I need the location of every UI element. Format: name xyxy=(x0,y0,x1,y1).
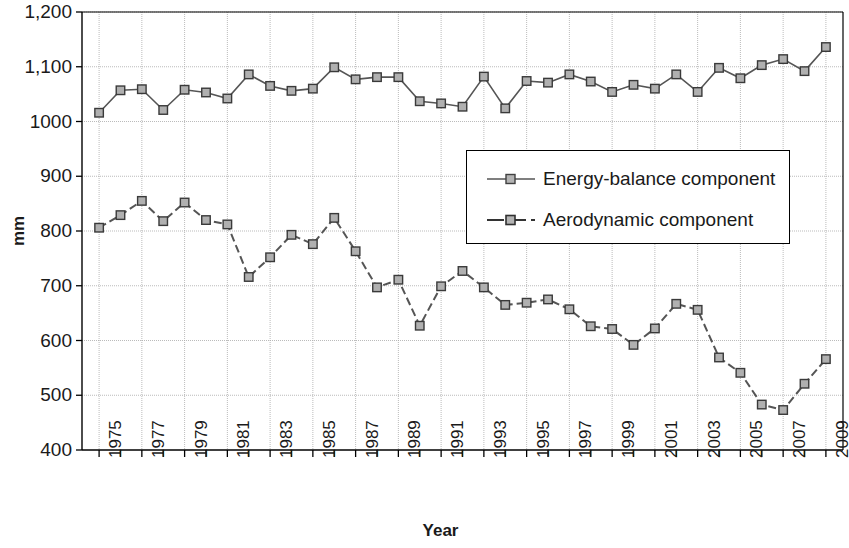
legend-label-energy-balance: Energy-balance component xyxy=(543,168,775,190)
data-point-marker xyxy=(736,74,745,83)
data-point-marker xyxy=(266,82,275,91)
data-point-marker xyxy=(373,73,382,82)
data-point-marker xyxy=(180,198,189,207)
data-point-marker xyxy=(458,267,467,276)
data-point-marker xyxy=(159,217,168,226)
data-point-marker xyxy=(651,84,660,93)
data-point-marker xyxy=(672,300,681,309)
data-point-marker xyxy=(822,43,831,52)
data-point-marker xyxy=(180,86,189,95)
data-point-marker xyxy=(437,282,446,291)
data-point-marker xyxy=(351,75,360,84)
data-point-marker xyxy=(758,61,767,70)
data-point-marker xyxy=(565,70,574,79)
data-point-marker xyxy=(522,298,531,307)
data-point-marker xyxy=(587,77,596,86)
legend-label-aerodynamic: Aerodynamic component xyxy=(543,209,753,231)
data-point-marker xyxy=(480,72,489,81)
data-point-marker xyxy=(736,369,745,378)
data-point-marker xyxy=(223,220,232,229)
data-point-marker xyxy=(800,67,809,76)
data-point-marker xyxy=(330,63,339,72)
data-point-marker xyxy=(223,94,232,103)
data-point-marker xyxy=(416,97,425,106)
data-point-marker xyxy=(608,325,617,334)
data-point-marker xyxy=(544,295,553,304)
data-point-marker xyxy=(629,81,638,90)
data-point-marker xyxy=(693,88,702,97)
x-axis-title: Year xyxy=(0,521,849,541)
chart-figure: mm 1,2001,1001000900800700600500400 1975… xyxy=(0,0,849,548)
data-point-marker xyxy=(779,55,788,64)
data-point-marker xyxy=(309,240,318,249)
data-point-marker xyxy=(138,197,147,206)
data-point-marker xyxy=(800,380,809,389)
data-point-marker xyxy=(501,104,510,113)
data-point-marker xyxy=(202,216,211,225)
legend-marker-aerodynamic xyxy=(485,210,537,230)
data-point-marker xyxy=(116,86,125,95)
chart-legend: Energy-balance component Aerodynamic com… xyxy=(466,150,790,244)
data-point-marker xyxy=(501,301,510,310)
data-point-marker xyxy=(480,283,489,292)
data-point-marker xyxy=(629,341,638,350)
data-point-marker xyxy=(202,88,211,97)
data-point-marker xyxy=(758,400,767,409)
data-point-marker xyxy=(608,88,617,97)
data-point-marker xyxy=(287,87,296,96)
data-point-marker xyxy=(458,102,467,111)
data-point-marker xyxy=(138,85,147,94)
data-point-marker xyxy=(116,211,125,220)
data-point-marker xyxy=(822,355,831,364)
legend-item-aerodynamic: Aerodynamic component xyxy=(467,205,789,235)
data-point-marker xyxy=(437,99,446,108)
data-point-marker xyxy=(522,77,531,86)
data-point-marker xyxy=(416,321,425,330)
data-point-marker xyxy=(373,283,382,292)
data-point-marker xyxy=(95,108,104,117)
data-point-marker xyxy=(351,247,360,256)
data-point-marker xyxy=(394,73,403,82)
legend-item-energy-balance: Energy-balance component xyxy=(467,164,789,194)
data-point-marker xyxy=(394,275,403,284)
data-point-marker xyxy=(651,324,660,333)
data-point-marker xyxy=(544,78,553,87)
data-point-marker xyxy=(244,273,253,282)
data-point-marker xyxy=(565,305,574,314)
data-point-marker xyxy=(779,406,788,415)
legend-marker-energy-balance xyxy=(485,169,537,189)
data-point-marker xyxy=(715,64,724,72)
data-point-marker xyxy=(244,70,253,79)
data-point-marker xyxy=(95,223,104,232)
plot-area xyxy=(0,0,849,548)
data-point-marker xyxy=(672,70,681,79)
data-point-marker xyxy=(309,84,318,93)
data-point-marker xyxy=(715,353,724,362)
data-point-marker xyxy=(693,306,702,315)
data-point-marker xyxy=(287,231,296,240)
data-point-marker xyxy=(587,322,596,331)
data-point-marker xyxy=(159,106,168,115)
data-point-marker xyxy=(266,253,275,262)
data-point-marker xyxy=(330,214,339,223)
series-energy-balance xyxy=(95,43,830,117)
